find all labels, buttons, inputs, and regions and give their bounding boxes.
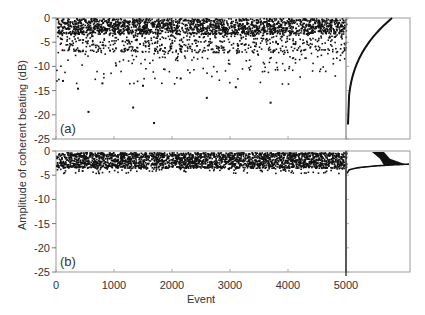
panel-a: 0-5-10-15-20-25 (a) [34,12,410,145]
panel-b-y-axis: 0-5-10-15-20-25 [34,145,349,278]
x-axis-title: Event [187,293,215,305]
svg-text:-25: -25 [34,266,50,278]
svg-text:5000: 5000 [334,279,358,291]
svg-text:-10: -10 [34,193,50,205]
panel-b-cumulative-curve [347,164,409,173]
panel-b-side-frame [346,151,410,272]
svg-text:-5: -5 [40,169,50,181]
svg-text:0: 0 [44,12,50,24]
panel-a-side-frame [346,18,410,139]
panel-a-scatter [56,18,347,124]
svg-text:0: 0 [44,145,50,157]
svg-text:-20: -20 [34,109,50,121]
svg-text:3000: 3000 [218,279,242,291]
svg-text:-25: -25 [34,133,50,145]
svg-text:1000: 1000 [102,279,126,291]
panel-a-frame [56,18,346,139]
panel-b-label: (b) [60,254,76,269]
svg-text:-20: -20 [34,242,50,254]
svg-text:0: 0 [53,279,59,291]
panel-a-label: (a) [60,121,76,136]
y-axis-title: Amplitude of coherent beating (dB) [16,60,28,230]
svg-text:-15: -15 [34,218,50,230]
svg-text:-15: -15 [34,85,50,97]
panel-b-histogram [372,152,406,166]
panel-a-cumulative-curve [348,18,392,125]
panel-b: 0-5-10-15-20-25 (b) [34,145,410,278]
svg-text:4000: 4000 [276,279,300,291]
panel-b-scatter [56,152,347,174]
svg-text:-10: -10 [34,60,50,72]
svg-text:-5: -5 [40,36,50,48]
svg-text:2000: 2000 [160,279,184,291]
figure: 0-5-10-15-20-25 (a) 0-5-10-15-20-25 (b) … [0,0,425,315]
